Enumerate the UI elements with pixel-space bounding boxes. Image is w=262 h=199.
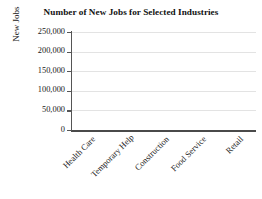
chart-figure: Number of New Jobs for Selected Industri… xyxy=(0,0,262,199)
y-axis-tick-mark xyxy=(67,71,72,72)
y-axis-tick-mark xyxy=(67,91,72,92)
y-axis-tick-mark xyxy=(67,110,72,111)
y-axis-tick-mark xyxy=(67,52,72,53)
x-axis-tick-labels: Health CareTemporary HelpConstructionFoo… xyxy=(0,0,262,199)
y-axis-tick-mark xyxy=(67,130,72,131)
y-axis-tick-mark xyxy=(67,32,72,33)
